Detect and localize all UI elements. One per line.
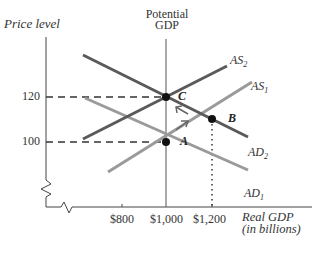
potential-gdp-label: Potential GDP	[143, 9, 191, 31]
x-tick-1000: $1,000	[150, 212, 183, 227]
arrow-a-to-b-icon	[176, 121, 188, 130]
point-c-label: C	[178, 89, 186, 104]
y-tick-120: 120	[22, 89, 40, 104]
point-b-label: B	[228, 111, 236, 126]
y-axis	[41, 37, 51, 207]
ad1-label: AD1	[244, 186, 264, 202]
x-axis-label: Real GDP (in billions)	[242, 211, 301, 235]
point-c	[162, 93, 170, 101]
x-tick-1200: $1,200	[193, 212, 226, 227]
point-a	[162, 138, 170, 146]
potential-gdp-label-line2: GDP	[143, 20, 191, 31]
as2-label: AS2	[230, 53, 247, 69]
y-tick-100: 100	[22, 134, 40, 149]
point-b	[208, 115, 216, 123]
ad2-label: AD2	[248, 145, 268, 161]
y-axis-label: Price level	[4, 16, 60, 32]
point-a-label: A	[180, 134, 188, 149]
x-axis-label-line2: (in billions)	[242, 223, 301, 235]
x-tick-800: $800	[110, 212, 134, 227]
as1-label: AS1	[251, 79, 268, 95]
